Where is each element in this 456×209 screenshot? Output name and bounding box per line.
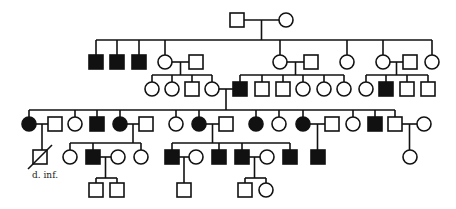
unaffected-male-symbol <box>185 82 199 96</box>
unaffected-female-symbol <box>259 183 273 197</box>
unaffected-male-symbol <box>230 13 244 27</box>
unaffected-female-symbol <box>417 117 431 131</box>
unaffected-male-symbol <box>403 55 417 69</box>
unaffected-female-symbol <box>189 150 203 164</box>
unaffected-female-symbol <box>376 55 390 69</box>
deceased-slash-icon <box>28 145 52 169</box>
unaffected-male-symbol <box>177 183 191 197</box>
pedigree-labels: d. inf. <box>32 170 58 180</box>
unaffected-female-symbol <box>169 117 183 131</box>
affected-female-symbol <box>296 117 310 131</box>
unaffected-male-symbol <box>421 82 435 96</box>
unaffected-female-symbol <box>359 82 373 96</box>
deceased-infancy-label: d. inf. <box>32 170 58 180</box>
unaffected-female-symbol <box>63 150 77 164</box>
unaffected-female-symbol <box>337 82 351 96</box>
affected-male-symbol <box>110 55 124 69</box>
unaffected-male-symbol <box>89 183 103 197</box>
affected-female-symbol <box>192 117 206 131</box>
unaffected-female-symbol <box>145 82 159 96</box>
unaffected-male-symbol <box>255 82 269 96</box>
affected-male-symbol <box>368 117 382 131</box>
unaffected-male-symbol <box>48 117 62 131</box>
affected-male-symbol <box>86 150 100 164</box>
unaffected-male-symbol <box>388 117 402 131</box>
affected-female-symbol <box>113 117 127 131</box>
unaffected-female-symbol <box>111 150 125 164</box>
unaffected-female-symbol <box>279 13 293 27</box>
affected-male-symbol <box>311 150 325 164</box>
unaffected-female-symbol <box>425 55 439 69</box>
unaffected-female-symbol <box>134 150 148 164</box>
affected-male-symbol <box>132 55 146 69</box>
affected-female-symbol <box>249 117 263 131</box>
affected-male-symbol <box>233 82 247 96</box>
unaffected-female-symbol <box>260 150 274 164</box>
affected-male-symbol <box>165 150 179 164</box>
unaffected-female-symbol <box>272 117 286 131</box>
unaffected-male-symbol <box>304 55 318 69</box>
affected-male-symbol <box>235 150 249 164</box>
unaffected-female-symbol <box>317 82 331 96</box>
unaffected-male-symbol <box>189 55 203 69</box>
affected-male-symbol <box>283 150 297 164</box>
unaffected-female-symbol <box>68 117 82 131</box>
unaffected-female-symbol <box>346 117 360 131</box>
unaffected-female-symbol <box>403 150 417 164</box>
unaffected-male-symbol <box>325 117 339 131</box>
unaffected-male-symbol <box>400 82 414 96</box>
unaffected-male-symbol <box>110 183 124 197</box>
unaffected-female-symbol <box>158 55 172 69</box>
affected-female-symbol <box>22 117 36 131</box>
pedigree-chart: d. inf. <box>0 0 456 209</box>
unaffected-male-symbol <box>238 183 252 197</box>
unaffected-female-symbol <box>273 55 287 69</box>
unaffected-male-symbol <box>276 82 290 96</box>
unaffected-male-symbol <box>139 117 153 131</box>
affected-male-symbol <box>379 82 393 96</box>
unaffected-male-symbol <box>219 117 233 131</box>
affected-male-symbol <box>212 150 226 164</box>
unaffected-female-symbol <box>205 82 219 96</box>
unaffected-female-symbol <box>296 82 310 96</box>
unaffected-female-symbol <box>165 82 179 96</box>
unaffected-female-symbol <box>340 55 354 69</box>
affected-male-symbol <box>90 117 104 131</box>
affected-male-symbol <box>89 55 103 69</box>
